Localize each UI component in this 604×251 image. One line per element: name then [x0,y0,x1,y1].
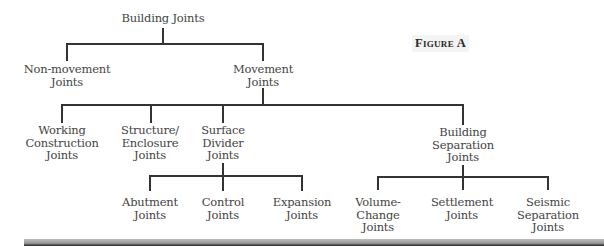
node-label: Volume- [355,196,400,209]
node-label: Building Joints [122,12,205,25]
node-label: Joints [24,76,111,89]
node-movement-joints: Movement Joints [233,63,293,88]
connector [222,163,224,191]
node-building-joints: Building Joints [122,12,205,25]
node-label: Joints [432,151,494,164]
bottom-rule [24,239,604,246]
node-label: Settlement [431,196,493,209]
node-label: Abutment [122,196,178,209]
node-label: Non-movement [24,63,111,76]
connector [66,43,264,45]
connector [61,104,464,106]
node-label: Joints [273,209,332,222]
node-surface-divider-joints: Surface Divider Joints [201,124,245,162]
connector [462,104,464,125]
connector [377,176,379,190]
connector [149,175,151,191]
connector [462,176,464,190]
node-label: Joints [121,149,179,162]
node-label: Working [25,124,98,137]
node-working-construction-joints: Working Construction Joints [25,124,98,162]
node-expansion-joints: Expansion Joints [273,196,332,221]
connector [61,104,63,123]
connector [66,43,68,61]
node-label: Joints [233,76,293,89]
node-seismic-separation-joints: Seismic Separation Joints [517,196,579,234]
node-abutment-joints: Abutment Joints [122,196,178,221]
node-building-separation-joints: Building Separation Joints [432,126,494,164]
node-label: Movement [233,63,293,76]
figure-label: Figure A [412,35,469,52]
building-joints-diagram: Figure A Building Joints Non-movement Jo… [0,0,604,251]
node-label: Building [432,126,494,139]
connector [301,175,303,191]
connector [262,88,264,105]
node-non-movement-joints: Non-movement Joints [24,63,111,88]
node-label: Joints [355,221,400,234]
connector [222,104,224,123]
node-label: Joints [201,149,245,162]
node-label: Structure/ [121,124,179,137]
node-label: Joints [517,221,579,234]
node-label: Joints [431,209,493,222]
connector [262,43,264,61]
node-label: Control [202,196,244,209]
node-label: Joints [202,209,244,222]
connector [162,28,164,44]
node-label: Seismic [517,196,579,209]
node-label: Joints [25,149,98,162]
connector [150,104,152,123]
node-volume-change-joints: Volume- Change Joints [355,196,400,234]
node-settlement-joints: Settlement Joints [431,196,493,221]
node-label: Surface [201,124,245,137]
node-label: Expansion [273,196,332,209]
node-control-joints: Control Joints [202,196,244,221]
connector [149,175,303,177]
node-label: Joints [122,209,178,222]
node-structure-enclosure-joints: Structure/ Enclosure Joints [121,124,179,162]
connector [547,176,549,190]
